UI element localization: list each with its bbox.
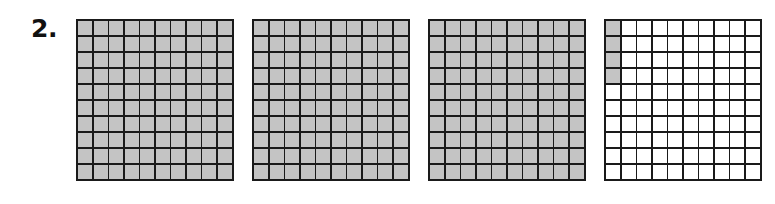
shaded-cell	[446, 165, 460, 179]
shaded-cell	[156, 133, 170, 147]
shaded-cell	[270, 149, 284, 163]
unshaded-cell	[699, 21, 713, 35]
shaded-cell	[492, 37, 506, 51]
shaded-cell	[254, 149, 268, 163]
unshaded-cell	[699, 53, 713, 67]
shaded-cell	[446, 117, 460, 131]
unshaded-cell	[715, 165, 729, 179]
unshaded-cell	[637, 53, 651, 67]
shaded-cell	[606, 53, 620, 67]
shaded-cell	[171, 149, 185, 163]
unshaded-cell	[668, 149, 682, 163]
unshaded-cell	[653, 85, 667, 99]
shaded-cell	[270, 133, 284, 147]
shaded-cell	[187, 21, 201, 35]
shaded-cell	[461, 37, 475, 51]
shaded-cell	[187, 101, 201, 115]
shaded-cell	[554, 37, 568, 51]
shaded-cell	[301, 37, 315, 51]
unshaded-cell	[730, 133, 744, 147]
shaded-cell	[430, 21, 444, 35]
shaded-cell	[508, 133, 522, 147]
shaded-cell	[78, 117, 92, 131]
shaded-cell	[316, 69, 330, 83]
unshaded-cell	[684, 133, 698, 147]
shaded-cell	[332, 21, 346, 35]
shaded-cell	[156, 21, 170, 35]
unshaded-cell	[684, 53, 698, 67]
unshaded-cell	[746, 37, 760, 51]
shaded-cell	[316, 85, 330, 99]
shaded-cell	[461, 53, 475, 67]
unshaded-cell	[715, 37, 729, 51]
shaded-cell	[254, 165, 268, 179]
shaded-cell	[171, 165, 185, 179]
unshaded-cell	[746, 85, 760, 99]
unshaded-cell	[606, 117, 620, 131]
shaded-cell	[554, 165, 568, 179]
shaded-cell	[394, 133, 408, 147]
shaded-cell	[285, 53, 299, 67]
shaded-cell	[125, 69, 139, 83]
unshaded-cell	[653, 165, 667, 179]
shaded-cell	[270, 69, 284, 83]
shaded-cell	[218, 37, 232, 51]
shaded-cell	[347, 101, 361, 115]
shaded-cell	[570, 53, 584, 67]
shaded-cell	[156, 117, 170, 131]
shaded-cell	[140, 101, 154, 115]
unshaded-cell	[699, 101, 713, 115]
shaded-cell	[554, 53, 568, 67]
shaded-cell	[301, 149, 315, 163]
shaded-cell	[78, 101, 92, 115]
shaded-cell	[109, 21, 123, 35]
unshaded-cell	[637, 37, 651, 51]
unshaded-cell	[684, 101, 698, 115]
shaded-cell	[78, 53, 92, 67]
shaded-cell	[254, 53, 268, 67]
shaded-cell	[554, 133, 568, 147]
unshaded-cell	[684, 85, 698, 99]
shaded-cell	[332, 133, 346, 147]
shaded-cell	[218, 101, 232, 115]
shaded-cell	[430, 53, 444, 67]
shaded-cell	[363, 37, 377, 51]
shaded-cell	[94, 117, 108, 131]
unshaded-cell	[684, 165, 698, 179]
shaded-cell	[523, 133, 537, 147]
unshaded-cell	[699, 85, 713, 99]
shaded-cell	[539, 149, 553, 163]
shaded-cell	[477, 37, 491, 51]
unshaded-cell	[622, 85, 636, 99]
unshaded-cell	[606, 149, 620, 163]
shaded-cell	[285, 133, 299, 147]
shaded-cell	[378, 69, 392, 83]
shaded-cell	[125, 165, 139, 179]
shaded-cell	[78, 21, 92, 35]
shaded-cell	[570, 117, 584, 131]
shaded-cell	[508, 37, 522, 51]
shaded-cell	[508, 53, 522, 67]
unshaded-cell	[637, 165, 651, 179]
shaded-cell	[270, 165, 284, 179]
shaded-cell	[492, 53, 506, 67]
unshaded-cell	[746, 165, 760, 179]
unshaded-cell	[622, 53, 636, 67]
unshaded-cell	[668, 53, 682, 67]
unshaded-cell	[715, 69, 729, 83]
unshaded-cell	[715, 149, 729, 163]
shaded-cell	[347, 69, 361, 83]
shaded-cell	[187, 149, 201, 163]
shaded-cell	[477, 21, 491, 35]
shaded-cell	[270, 85, 284, 99]
unshaded-cell	[622, 101, 636, 115]
shaded-cell	[171, 101, 185, 115]
unshaded-cell	[637, 69, 651, 83]
shaded-cell	[347, 133, 361, 147]
shaded-cell	[301, 53, 315, 67]
unshaded-cell	[622, 133, 636, 147]
shaded-cell	[508, 101, 522, 115]
shaded-cell	[218, 69, 232, 83]
shaded-cell	[430, 69, 444, 83]
unshaded-cell	[730, 37, 744, 51]
